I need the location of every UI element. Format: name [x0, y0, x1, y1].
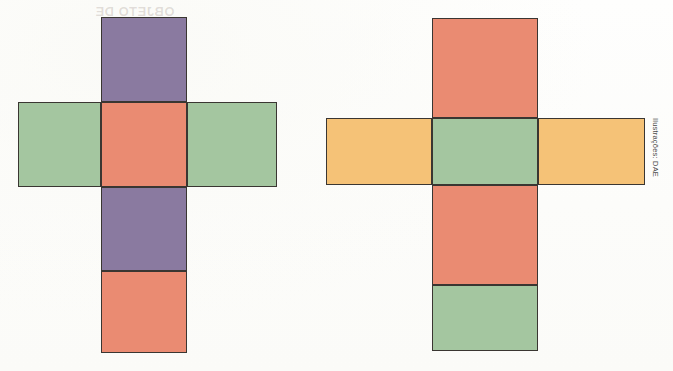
cube-net-right [0, 0, 673, 371]
cube-face-lower-salmon[interactable] [432, 185, 538, 285]
cube-face-right-orange[interactable] [538, 118, 645, 185]
cube-face-center-green[interactable] [432, 118, 538, 185]
cube-face-left-orange[interactable] [326, 118, 432, 185]
cube-face-bottom-green[interactable] [432, 285, 538, 351]
cube-face-top-salmon[interactable] [432, 18, 538, 118]
illustration-page: OBJETO DE EM SALA DE AULA ATIVIDADE 1 al… [0, 0, 673, 371]
illustration-credit: Ilustrações: DAE [646, 118, 660, 188]
